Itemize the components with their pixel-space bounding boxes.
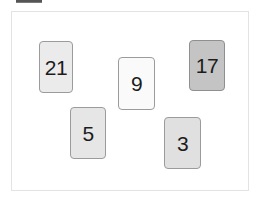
app-root: 2191753 bbox=[0, 0, 260, 202]
card-value-label: 3 bbox=[177, 133, 188, 154]
card-value-label: 9 bbox=[131, 73, 142, 94]
card-3[interactable]: 3 bbox=[164, 117, 201, 169]
card-value-label: 5 bbox=[82, 123, 93, 144]
card-21[interactable]: 21 bbox=[39, 41, 73, 93]
card-17[interactable]: 17 bbox=[189, 40, 225, 91]
clipped-toolbar-strip[interactable] bbox=[16, 0, 42, 3]
card-arrangement-area[interactable]: 2191753 bbox=[11, 11, 249, 191]
card-5[interactable]: 5 bbox=[70, 107, 106, 159]
card-value-label: 17 bbox=[196, 55, 218, 76]
card-9[interactable]: 9 bbox=[118, 57, 155, 110]
card-value-label: 21 bbox=[45, 57, 67, 78]
